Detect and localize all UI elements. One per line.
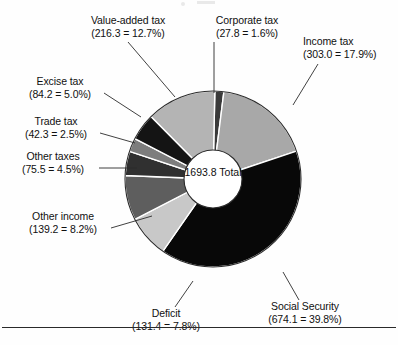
leader-line-trade-tax — [100, 133, 135, 143]
label-value-added-tax-line2: (216.3 = 12.7%) — [60, 27, 196, 40]
label-trade-tax-line1: Trade tax — [10, 115, 102, 128]
label-corporate-tax-line1: Corporate tax — [190, 14, 304, 27]
label-other-taxes-line2: (75.5 = 4.5%) — [6, 163, 100, 176]
donut-center-value: 1693.8 — [184, 166, 216, 178]
label-excise-tax: Excise tax (84.2 = 5.0%) — [14, 75, 106, 100]
label-corporate-tax-line2: (27.8 = 1.6%) — [190, 27, 304, 40]
leader-line-social-security — [283, 272, 299, 300]
label-trade-tax: Trade tax (42.3 = 2.5%) — [10, 115, 102, 140]
leader-line-deficit — [175, 281, 193, 307]
label-other-income: Other income (139.2 = 8.2%) — [12, 210, 114, 235]
bottom-rule — [2, 327, 396, 328]
label-other-income-line2: (139.2 = 8.2%) — [12, 223, 114, 236]
label-social-security: Social Security (674.1 = 39.8%) — [244, 300, 366, 325]
label-income-tax-line1: Income tax — [303, 35, 398, 48]
label-other-taxes: Other taxes (75.5 = 4.5%) — [6, 150, 100, 175]
leader-line-excise-tax — [104, 93, 141, 117]
donut-center-label: 1693.8 Total — [183, 166, 243, 179]
leader-line-income-tax — [293, 64, 318, 105]
label-trade-tax-line2: (42.3 = 2.5%) — [10, 128, 102, 141]
label-other-taxes-line1: Other taxes — [6, 150, 100, 163]
label-social-security-line2: (674.1 = 39.8%) — [244, 313, 366, 326]
label-excise-tax-line2: (84.2 = 5.0%) — [14, 88, 106, 101]
leader-line-value-added-tax — [128, 42, 175, 97]
label-income-tax: Income tax (303.0 = 17.9%) — [303, 35, 398, 60]
label-value-added-tax: Value-added tax (216.3 = 12.7%) — [60, 14, 196, 39]
donut-hole — [184, 150, 242, 208]
label-value-added-tax-line1: Value-added tax — [60, 14, 196, 27]
label-income-tax-line2: (303.0 = 17.9%) — [303, 48, 398, 61]
label-social-security-line1: Social Security — [244, 300, 366, 313]
label-other-income-line1: Other income — [12, 210, 114, 223]
label-excise-tax-line1: Excise tax — [14, 75, 106, 88]
label-corporate-tax: Corporate tax (27.8 = 1.6%) — [190, 14, 304, 39]
label-deficit-line2: (131.4 = 7.8%) — [112, 320, 220, 333]
donut-center-caption: Total — [219, 166, 241, 178]
label-deficit-line1: Deficit — [112, 307, 220, 320]
chart-page: Value-added tax (216.3 = 12.7%) Corporat… — [0, 0, 398, 345]
